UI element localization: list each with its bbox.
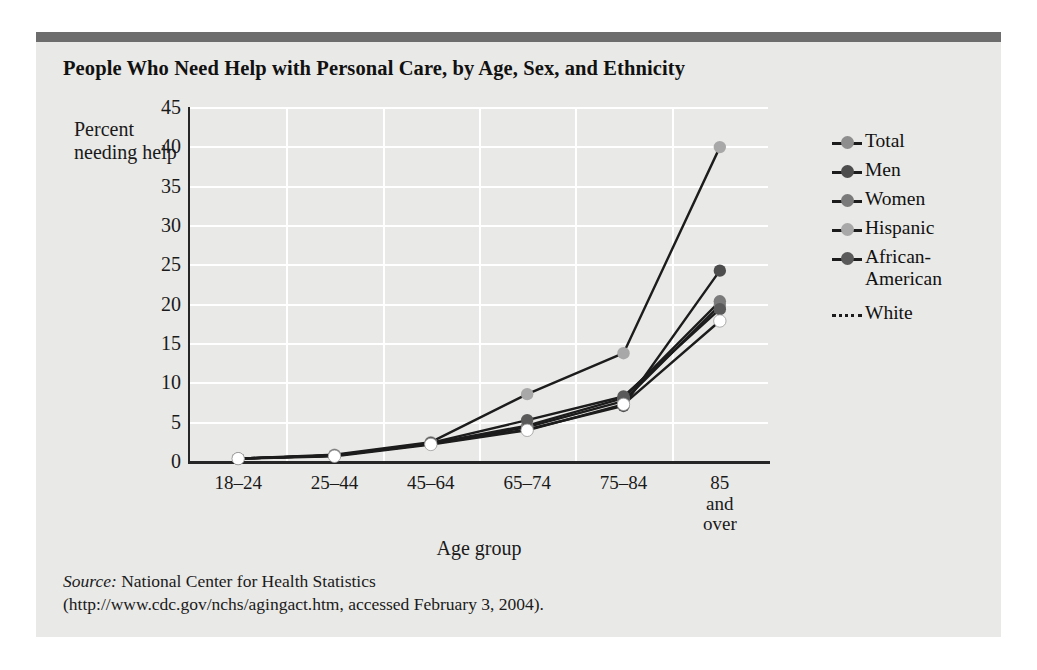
x-tick-label: 45–64	[407, 473, 455, 494]
x-axis-label: Age group	[190, 537, 768, 560]
plot-area: 051015202530354045 18–2425–4445–6465–747…	[190, 107, 768, 461]
y-tick-label: 35	[161, 174, 181, 197]
series-line	[238, 301, 720, 458]
data-point-marker	[328, 450, 340, 462]
legend-key-icon	[831, 161, 865, 183]
data-point-marker	[714, 303, 726, 315]
data-point-marker	[714, 141, 726, 153]
top-rule	[36, 32, 1001, 42]
data-point-marker	[714, 264, 726, 276]
y-tick-label: 5	[171, 410, 181, 433]
legend-key-icon	[831, 219, 865, 241]
legend: TotalMenWomenHispanicAfrican- AmericanWh…	[831, 130, 996, 331]
legend-item[interactable]: Hispanic	[831, 217, 996, 244]
figure-panel: People Who Need Help with Personal Care,…	[36, 32, 1001, 637]
y-tick-label: 10	[161, 371, 181, 394]
legend-label: African- American	[865, 246, 942, 290]
series-lines	[190, 107, 768, 463]
y-tick-label: 0	[171, 450, 181, 473]
legend-key-icon	[831, 248, 865, 270]
x-tick-label: 75–84	[600, 473, 648, 494]
legend-item[interactable]: Women	[831, 188, 996, 215]
x-tick-label: 25–44	[311, 473, 359, 494]
legend-label: Women	[865, 188, 925, 210]
x-tick-label: 18–24	[214, 473, 262, 494]
y-tick-label: 15	[161, 332, 181, 355]
legend-label: Men	[865, 159, 901, 181]
data-point-marker	[617, 398, 629, 410]
source-line-1: National Center for Health Statistics	[117, 571, 376, 591]
source-label: Source:	[63, 571, 117, 591]
series-line	[238, 321, 720, 459]
legend-key-icon	[831, 304, 865, 326]
legend-label: White	[865, 302, 913, 324]
y-tick-label: 40	[161, 135, 181, 158]
x-tick-label: 65–74	[503, 473, 551, 494]
x-tick-label: 85 and over	[696, 473, 744, 535]
data-point-marker	[617, 347, 629, 359]
data-point-marker	[425, 438, 437, 450]
data-point-marker	[232, 452, 244, 464]
y-tick-label: 25	[161, 253, 181, 276]
y-tick-label: 45	[161, 96, 181, 119]
data-point-marker	[521, 388, 533, 400]
legend-label: Total	[865, 130, 905, 152]
y-tick-label: 30	[161, 214, 181, 237]
legend-key-icon	[831, 132, 865, 154]
legend-item[interactable]: Men	[831, 159, 996, 186]
legend-item[interactable]: Total	[831, 130, 996, 157]
source-note: Source: National Center for Health Stati…	[63, 570, 544, 616]
legend-key-icon	[831, 190, 865, 212]
series-line	[238, 147, 720, 459]
legend-item[interactable]: African- American	[831, 246, 996, 300]
data-point-marker	[714, 315, 726, 327]
y-tick-label: 20	[161, 292, 181, 315]
legend-label: Hispanic	[865, 217, 934, 239]
legend-item[interactable]: White	[831, 302, 996, 329]
chart-title: People Who Need Help with Personal Care,…	[63, 57, 685, 80]
data-point-marker	[521, 424, 533, 436]
source-line-2: (http://www.cdc.gov/nchs/agingact.htm, a…	[63, 593, 544, 616]
